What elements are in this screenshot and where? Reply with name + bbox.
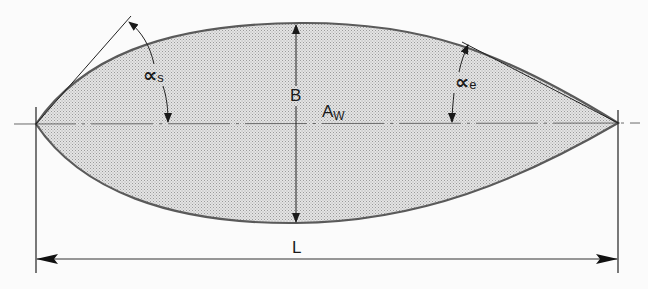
beam-label: B	[290, 87, 301, 104]
alpha-e-subscript: e	[469, 77, 476, 92]
alpha-symbol: ∝	[455, 70, 469, 94]
area-symbol: A	[322, 102, 333, 121]
waterplane-area-label: AW	[322, 103, 345, 120]
alpha-s-subscript: s	[157, 70, 164, 85]
area-subscript: W	[333, 109, 344, 123]
diagram-graphic	[0, 0, 648, 289]
length-label: L	[292, 239, 301, 256]
waterplane-diagram: ∝s ∝e B AW L	[0, 0, 648, 289]
alpha-s-label: ∝s	[143, 65, 164, 85]
alpha-symbol: ∝	[143, 63, 157, 87]
alpha-e-label: ∝e	[455, 72, 476, 92]
